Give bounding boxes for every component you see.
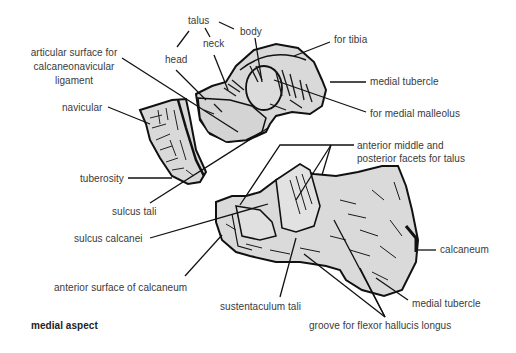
figure-caption: medial aspect xyxy=(31,320,98,332)
label-facets-for-talus: anterior middle and posterior facets for… xyxy=(357,139,465,165)
label-navicular: navicular xyxy=(62,102,102,114)
label-for-tibia: for tibia xyxy=(334,34,367,46)
label-medial-tubercle-calcaneum: medial tubercle xyxy=(412,298,481,310)
label-for-medial-malleolus: for medial malleolus xyxy=(370,108,460,120)
label-sulcus-tali: sulcus tali xyxy=(112,206,156,218)
label-facets-line1: anterior middle and xyxy=(357,139,465,152)
label-articular-surface: articular surface for calcaneonavicular … xyxy=(26,46,122,88)
label-medial-tubercle-talus: medial tubercle xyxy=(370,76,439,88)
label-neck: neck xyxy=(203,38,224,50)
label-articular-surface-line2: calcaneonavicular xyxy=(26,60,122,74)
label-articular-surface-line3: ligament xyxy=(26,74,122,88)
anatomy-figure: talus body neck head for tibia articular… xyxy=(0,0,516,353)
calcaneum-bone xyxy=(216,164,418,296)
label-calcaneum: calcaneum xyxy=(440,244,489,256)
label-facets-line2: posterior facets for talus xyxy=(357,152,465,165)
label-talus: talus xyxy=(188,15,209,27)
label-anterior-surface-of-calcaneum: anterior surface of calcaneum xyxy=(54,282,187,294)
label-sulcus-calcanei: sulcus calcanei xyxy=(74,233,143,245)
label-body: body xyxy=(240,26,262,38)
label-groove-for-flexor-hallucis-longus: groove for flexor hallucis longus xyxy=(309,320,451,332)
label-articular-surface-line1: articular surface for xyxy=(26,46,122,60)
navicular-bone xyxy=(140,99,206,184)
label-tuberosity: tuberosity xyxy=(80,173,124,185)
label-head: head xyxy=(165,54,187,66)
label-sustentaculum-tali: sustentaculum tali xyxy=(220,301,301,313)
